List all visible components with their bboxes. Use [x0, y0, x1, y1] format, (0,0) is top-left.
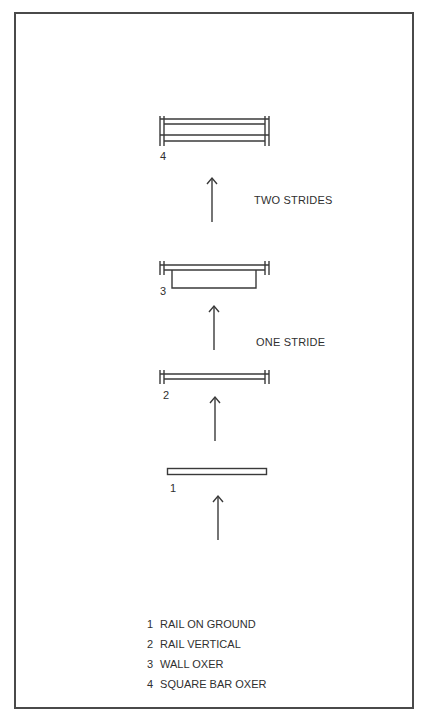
- legend-label: RAIL ON GROUND: [160, 618, 256, 630]
- fence-2-rail-vertical: [160, 370, 269, 384]
- fence-number-4: 4: [160, 150, 166, 162]
- arrow-up-icon: [213, 496, 223, 540]
- fence-3-wall-oxer: [160, 261, 269, 288]
- arrow-up-icon: [207, 178, 217, 222]
- fence-number-3: 3: [160, 285, 166, 297]
- fence-number-1: 1: [170, 482, 176, 494]
- legend-label: WALL OXER: [160, 658, 223, 670]
- legend: 1 RAIL ON GROUND 2 RAIL VERTICAL 3 WALL …: [147, 617, 266, 697]
- legend-number: 1: [147, 617, 157, 631]
- legend-item: 2 RAIL VERTICAL: [147, 637, 266, 657]
- fence-4-square-bar-oxer: [160, 116, 269, 146]
- legend-number: 3: [147, 657, 157, 671]
- stride-label-two-strides: TWO STRIDES: [254, 194, 333, 206]
- fence-1-rail-on-ground: [168, 469, 267, 475]
- legend-item: 1 RAIL ON GROUND: [147, 617, 266, 637]
- legend-number: 4: [147, 677, 157, 691]
- legend-item: 4 SQUARE BAR OXER: [147, 677, 266, 697]
- legend-item: 3 WALL OXER: [147, 657, 266, 677]
- legend-label: SQUARE BAR OXER: [160, 678, 266, 690]
- stride-label-one-stride: ONE STRIDE: [256, 336, 325, 348]
- fence-number-2: 2: [163, 389, 169, 401]
- legend-number: 2: [147, 637, 157, 651]
- jump-course-diagram: [0, 0, 424, 719]
- arrow-up-icon: [209, 306, 219, 350]
- arrow-up-icon: [210, 397, 220, 441]
- legend-label: RAIL VERTICAL: [160, 638, 241, 650]
